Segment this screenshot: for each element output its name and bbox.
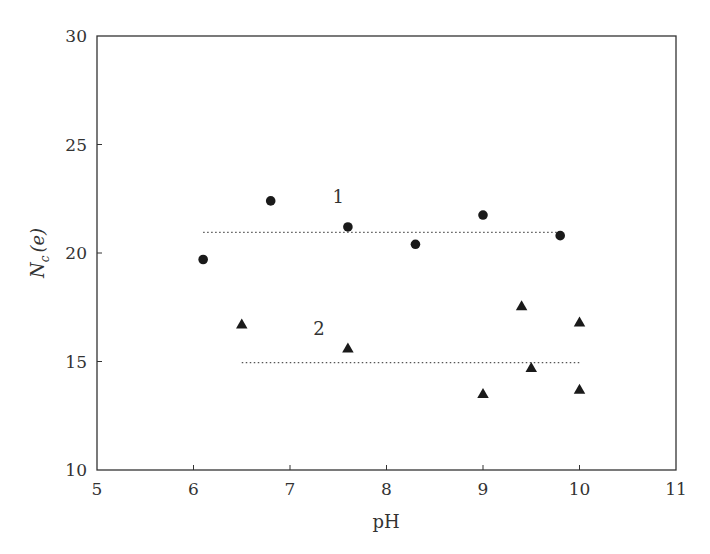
y-tick-label: 30 bbox=[65, 26, 87, 46]
x-tick-label: 5 bbox=[92, 479, 103, 499]
y-axis-label-main: N bbox=[27, 261, 48, 279]
x-tick-label: 6 bbox=[188, 479, 199, 499]
circle-marker bbox=[478, 210, 488, 220]
y-tick-label: 15 bbox=[65, 352, 87, 372]
triangle-marker bbox=[526, 362, 538, 372]
y-axis-label-sub: c bbox=[38, 255, 52, 262]
circle-marker bbox=[411, 240, 421, 250]
data-markers bbox=[198, 196, 585, 398]
x-tick-label: 11 bbox=[665, 479, 687, 499]
triangle-marker bbox=[477, 388, 489, 398]
circle-marker bbox=[343, 222, 353, 232]
x-tick-label: 10 bbox=[569, 479, 591, 499]
triangle-marker bbox=[516, 300, 528, 310]
series-2-label: 2 bbox=[313, 318, 324, 339]
circle-marker bbox=[198, 255, 208, 265]
series-labels: 12 bbox=[313, 186, 344, 339]
triangle-marker bbox=[574, 384, 586, 394]
x-tick-label: 9 bbox=[478, 479, 489, 499]
circle-marker bbox=[555, 231, 565, 241]
x-tick-label: 7 bbox=[285, 479, 296, 499]
x-tick-label: 8 bbox=[381, 479, 392, 499]
series-1-label: 1 bbox=[333, 186, 344, 207]
triangle-marker bbox=[236, 319, 248, 329]
plot-frame bbox=[97, 36, 676, 470]
y-axis-label: Nc(e) bbox=[27, 228, 52, 279]
triangle-marker bbox=[342, 342, 354, 352]
y-tick-label: 10 bbox=[65, 460, 87, 480]
circle-marker bbox=[266, 196, 276, 206]
triangle-marker bbox=[574, 316, 586, 326]
y-tick-label: 25 bbox=[65, 135, 87, 155]
y-tick-label: 20 bbox=[65, 243, 87, 263]
mean-lines bbox=[203, 232, 579, 362]
y-axis-label-tail: (e) bbox=[27, 228, 48, 253]
x-axis-label: pH bbox=[372, 511, 399, 532]
scatter-chart: 567891011 1015202530 12 pH Nc(e) bbox=[0, 0, 710, 554]
